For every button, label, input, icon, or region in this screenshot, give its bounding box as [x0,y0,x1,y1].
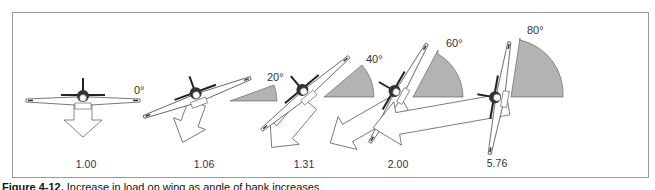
bank-angle-diagram: 0° 20° 40° 60° [0,0,655,190]
bank-angle-wedge [230,85,277,101]
stage-20-deg: 20° [136,57,284,148]
load-factor-value: 2.00 [388,158,409,170]
caption-text: Increase in load on wing as angle of ban… [67,181,323,190]
bank-angle-label: 80° [527,24,544,36]
bank-angle-label: 0° [134,84,145,96]
load-factor-value: 1.00 [76,158,97,170]
airplane-icon [467,38,517,156]
load-factor-value: 1.31 [294,158,315,170]
figure-caption: Figure 4-12. Increase in load on wing as… [2,181,322,190]
load-factor-value: 1.06 [194,158,215,170]
stage-0-deg: 0° [26,78,145,137]
bank-angle-label: 40° [366,53,383,65]
bank-angle-label: 20° [267,71,284,83]
bank-angle-label: 60° [446,37,463,49]
load-factor-value: 5.76 [487,157,508,169]
airplane-icon [26,78,140,109]
bank-angle-wedge [511,38,563,97]
caption-label: Figure 4-12. [2,181,64,190]
